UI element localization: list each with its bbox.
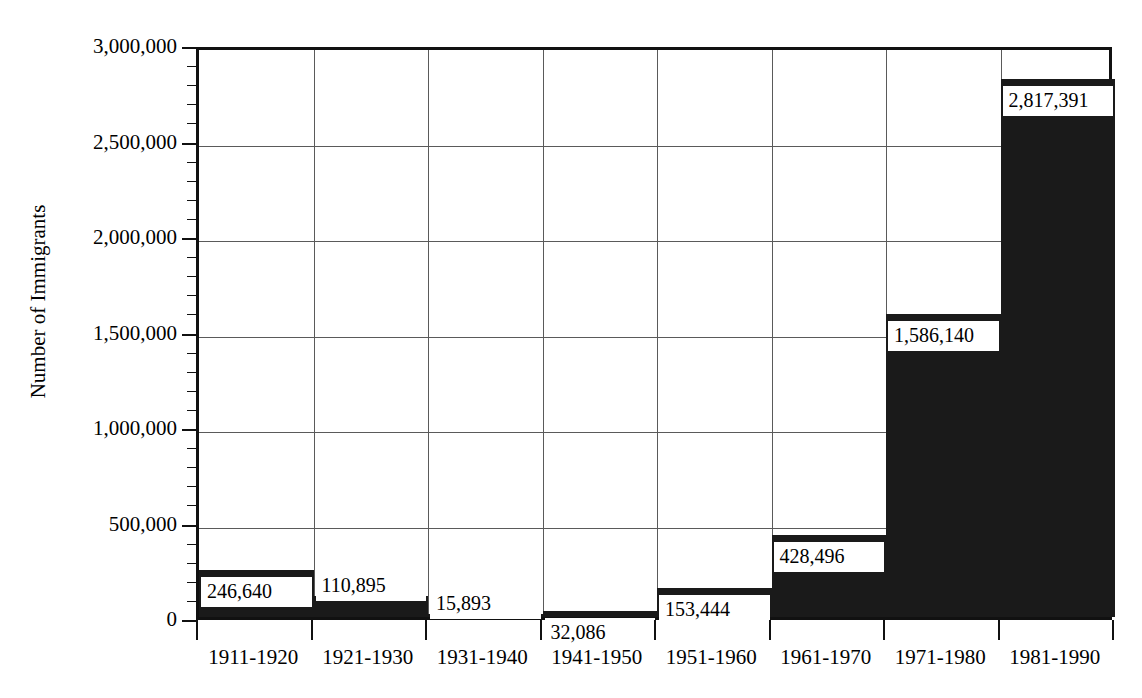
y-axis-tick-label: 3,000,000 <box>93 36 177 57</box>
y-axis-tick-minor <box>187 563 196 564</box>
y-axis-tick-minor <box>187 123 196 124</box>
y-axis-tick-label: 2,500,000 <box>93 132 177 153</box>
bar-value-label: 1,586,140 <box>888 321 999 351</box>
y-axis-tick-minor <box>187 467 196 468</box>
y-axis-tick-minor <box>187 200 196 201</box>
x-axis-tick-label: 1951-1960 <box>654 645 769 669</box>
y-axis-tick-minor <box>187 295 196 296</box>
y-axis-tick-minor <box>187 544 196 545</box>
x-axis-tick-label: 1941-1950 <box>540 645 655 669</box>
y-axis-tick-minor <box>187 353 196 354</box>
x-axis-tick <box>196 620 198 640</box>
y-axis-tick-major <box>182 429 196 431</box>
bar[interactable] <box>886 314 1001 617</box>
y-axis-tick-major <box>182 334 196 336</box>
y-axis-tick-minor <box>187 601 196 602</box>
y-axis-tick-minor <box>187 276 196 277</box>
bar-value-label: 153,444 <box>659 595 770 625</box>
y-axis-tick-minor <box>187 410 196 411</box>
x-axis-tick-label: 1911-1920 <box>196 645 311 669</box>
x-axis-tick <box>998 620 1000 640</box>
y-axis-tick-minor <box>187 104 196 105</box>
y-axis-tick-minor <box>187 372 196 373</box>
x-axis-tick-label: 1931-1940 <box>425 645 540 669</box>
bar-value-label: 2,817,391 <box>1003 86 1114 116</box>
y-axis-tick-label: 1,500,000 <box>93 323 177 344</box>
y-axis-tick-minor <box>187 257 196 258</box>
y-axis-tick-minor <box>187 314 196 315</box>
x-axis-tick <box>425 620 427 640</box>
y-axis-tick-minor <box>187 505 196 506</box>
plot-area: 246,640110,89515,89332,086153,444428,496… <box>196 47 1112 620</box>
immigration-bar-chart: Number of Immigrants 0500,0001,000,0001,… <box>0 0 1142 698</box>
x-axis-tick-label: 1921-1930 <box>311 645 426 669</box>
y-axis-tick-major <box>182 238 196 240</box>
y-axis-tick-major <box>182 143 196 145</box>
y-axis-tick-minor <box>187 391 196 392</box>
bar[interactable] <box>543 611 658 617</box>
x-axis-tick-label: 1971-1980 <box>883 645 998 669</box>
y-axis-tick-minor <box>187 181 196 182</box>
y-axis-tick-label: 2,000,000 <box>93 227 177 248</box>
y-axis-tick-minor <box>187 66 196 67</box>
x-axis-tick-label: 1961-1970 <box>769 645 884 669</box>
bar-value-label: 110,895 <box>316 571 427 601</box>
bar-value-label: 15,893 <box>430 589 541 619</box>
bar-value-label: 428,496 <box>774 542 885 572</box>
y-axis-tick-minor <box>187 162 196 163</box>
x-axis-tick <box>311 620 313 640</box>
y-axis-tick-label: 1,000,000 <box>93 418 177 439</box>
bar-value-label: 246,640 <box>201 577 312 607</box>
x-axis-tick <box>769 620 771 640</box>
y-axis-tick-major <box>182 620 196 622</box>
y-axis-title: Number of Immigrants <box>28 172 49 432</box>
y-axis-tick-minor <box>187 448 196 449</box>
y-axis-tick-minor <box>187 219 196 220</box>
y-axis-tick-major <box>182 525 196 527</box>
bar-value-label: 32,086 <box>545 618 656 648</box>
x-axis-tick <box>654 620 656 640</box>
bar[interactable] <box>1001 79 1116 617</box>
x-axis-tick <box>883 620 885 640</box>
y-axis-tick-label: 500,000 <box>109 514 177 535</box>
y-axis-tick-major <box>182 47 196 49</box>
x-axis-tick <box>540 620 542 640</box>
y-axis-tick-minor <box>187 85 196 86</box>
x-axis-tick <box>1112 620 1114 640</box>
y-axis-tick-minor <box>187 582 196 583</box>
y-axis-tick-label: 0 <box>167 609 178 630</box>
y-axis-tick-minor <box>187 486 196 487</box>
x-axis-tick-label: 1981-1990 <box>998 645 1113 669</box>
